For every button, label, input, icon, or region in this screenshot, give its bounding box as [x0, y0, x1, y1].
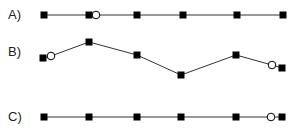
- square-node-icon: [234, 12, 241, 19]
- circle-node-icon: [92, 11, 100, 19]
- row-line-1: [43, 42, 282, 75]
- circle-node-icon: [268, 61, 276, 69]
- square-node-icon: [86, 114, 93, 121]
- square-node-icon: [86, 39, 93, 46]
- square-node-icon: [233, 114, 240, 121]
- circle-node-icon: [47, 52, 55, 60]
- diagram: [0, 0, 294, 134]
- square-node-icon: [40, 55, 47, 62]
- square-node-icon: [134, 12, 141, 19]
- square-node-icon: [233, 52, 240, 59]
- square-node-icon: [178, 114, 185, 121]
- square-node-icon: [279, 114, 286, 121]
- square-node-icon: [134, 114, 141, 121]
- square-node-icon: [280, 12, 287, 19]
- square-node-icon: [180, 12, 187, 19]
- square-node-icon: [86, 12, 93, 19]
- square-node-icon: [279, 65, 286, 72]
- square-node-icon: [41, 12, 48, 19]
- circle-node-icon: [267, 113, 275, 121]
- square-node-icon: [178, 72, 185, 79]
- square-node-icon: [41, 114, 48, 121]
- square-node-icon: [134, 52, 141, 59]
